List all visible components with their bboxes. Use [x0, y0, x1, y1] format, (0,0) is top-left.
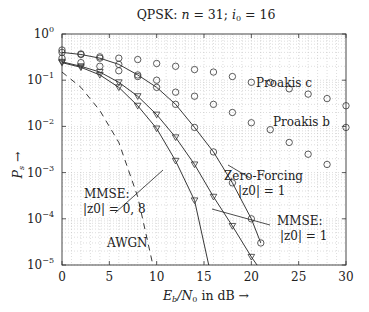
x-tick-label: 10 [149, 270, 164, 284]
y-tick-label: 10−1 [27, 71, 54, 87]
y-tick-label: 10−2 [27, 117, 54, 133]
series-mmse-z0-0-8 [59, 60, 209, 265]
label-zero-forcing: Zero-Forcing [224, 169, 303, 183]
annotations: Proakis c Proakis b Zero-Forcing |z0| = … [83, 76, 330, 250]
label-mmse-1: MMSE: [277, 214, 323, 228]
label-mmse-08: MMSE: [84, 187, 130, 201]
x-tick-label: 15 [196, 270, 211, 284]
label-awgn: AWGN [106, 236, 148, 250]
y-tick-label: 10−4 [27, 210, 54, 226]
chart: 05101520253010010−110−210−310−410−5 QPSK… [0, 0, 369, 312]
label-zero-forcing-z0: |z0| = 1 [238, 184, 285, 198]
x-tick-label: 0 [58, 270, 66, 284]
x-tick-label: 5 [106, 270, 114, 284]
y-tick-label: 10−5 [27, 256, 54, 272]
label-proakis-c: Proakis c [256, 76, 312, 90]
y-tick-label: 100 [34, 25, 54, 41]
y-axis-label: Ps → [10, 151, 26, 180]
label-proakis-b: Proakis b [273, 115, 330, 129]
x-tick-label: 20 [244, 270, 259, 284]
series-zero-forcing-z0-1 [59, 49, 264, 246]
label-mmse-08-z0: |z0| = 0, 8 [83, 202, 146, 216]
chart-title: QPSK: n = 31; i0 = 16 [137, 7, 276, 23]
x-tick-label: 25 [291, 270, 306, 284]
svg-text:Ps →: Ps → [10, 151, 26, 180]
x-tick-label: 30 [338, 270, 353, 284]
y-tick-label: 10−3 [27, 164, 54, 180]
label-mmse-1-z0: |z0| = 1 [280, 229, 327, 243]
x-axis-label: Eb/N0 in dB → [162, 288, 250, 304]
